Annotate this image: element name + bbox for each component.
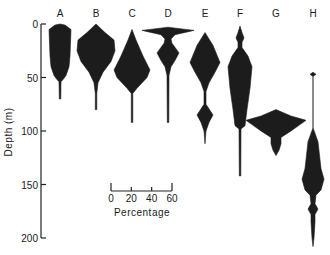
kite-a bbox=[49, 24, 71, 99]
column-label-f: F bbox=[237, 8, 243, 19]
y-tick-label: 0 bbox=[32, 19, 38, 30]
scale-bar-tick-label: 0 bbox=[108, 193, 114, 204]
column-label-c: C bbox=[128, 8, 135, 19]
kite-b bbox=[77, 24, 115, 110]
kite-f bbox=[228, 26, 252, 176]
y-tick-label: 150 bbox=[21, 180, 38, 191]
y-ticks: 050100150200 bbox=[21, 19, 46, 244]
column-label-b: B bbox=[93, 8, 100, 19]
kite-h bbox=[302, 72, 324, 246]
column-label-e: E bbox=[202, 8, 209, 19]
kite-c bbox=[114, 29, 150, 122]
y-tick-label: 100 bbox=[21, 126, 38, 137]
kites bbox=[49, 24, 324, 247]
column-label-g: G bbox=[272, 8, 280, 19]
kite-diagram: 050100150200 Depth (m) ABCDEFGH 0204060 … bbox=[0, 0, 330, 255]
kite-g bbox=[246, 110, 306, 156]
column-label-h: H bbox=[309, 8, 316, 19]
scale-bar-tick-label: 40 bbox=[146, 193, 158, 204]
y-tick-label: 50 bbox=[27, 73, 39, 84]
column-label-a: A bbox=[57, 8, 64, 19]
scale-bar-tick-label: 60 bbox=[166, 193, 178, 204]
column-label-d: D bbox=[164, 8, 171, 19]
chart-canvas: 050100150200 Depth (m) ABCDEFGH 0204060 … bbox=[0, 0, 330, 255]
y-axis-title: Depth (m) bbox=[3, 108, 14, 157]
kite-e bbox=[190, 33, 220, 144]
scale-bar-tick-label: 20 bbox=[126, 193, 138, 204]
percentage-scale-bar: 0204060 bbox=[108, 183, 178, 204]
y-tick-label: 200 bbox=[21, 233, 38, 244]
scale-bar-title: Percentage bbox=[114, 207, 170, 218]
kite-d bbox=[142, 27, 194, 122]
column-labels: ABCDEFGH bbox=[57, 8, 317, 19]
